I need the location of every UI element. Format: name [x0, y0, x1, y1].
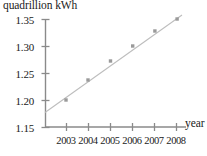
- data-point-2007: [153, 29, 156, 32]
- y-tick-label-120: 1.20: [4, 95, 34, 107]
- data-point-2004: [86, 78, 89, 81]
- x-tick-label-2005: 2005: [100, 135, 119, 146]
- trend-line: [45, 15, 182, 113]
- x-tick-label-2007: 2007: [144, 135, 163, 146]
- y-tick-label-125: 1.25: [4, 68, 34, 80]
- data-point-2003: [64, 98, 67, 101]
- x-tick-label-2003: 2003: [56, 135, 75, 146]
- x-tick-label-2004: 2004: [78, 135, 97, 146]
- y-tick-label-115: 1.15: [4, 122, 34, 134]
- chart-figure: quadrillion kWh: [0, 0, 207, 156]
- x-axis-title: year: [185, 117, 204, 129]
- y-tick-label-135: 1.35: [4, 14, 34, 26]
- y-tick-label-130: 1.30: [4, 41, 34, 53]
- x-tick-label-2006: 2006: [122, 135, 141, 146]
- data-point-2006: [131, 44, 134, 47]
- x-tick-label-2008: 2008: [166, 135, 185, 146]
- data-point-2005: [109, 59, 112, 62]
- data-point-2008: [175, 17, 178, 20]
